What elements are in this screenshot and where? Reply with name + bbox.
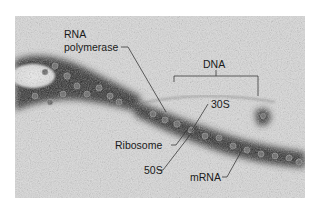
label-rna: RNA: [64, 28, 86, 40]
label-mrna: mRNA: [190, 171, 221, 183]
leader-lines: [0, 0, 320, 209]
leader-ribosome: [171, 126, 190, 145]
label-polymerase: polymerase: [64, 41, 118, 53]
label-ribosome: Ribosome: [115, 139, 162, 151]
dna-bracket: [174, 70, 258, 96]
leader-50s: [158, 126, 197, 170]
label-30s: 30S: [211, 98, 230, 110]
leader-mrna: [222, 150, 242, 177]
label-dna: DNA: [203, 58, 225, 70]
label-50s: 50S: [144, 164, 163, 176]
leader-30s: [192, 104, 208, 130]
leader-rna-polymerase: [121, 47, 166, 112]
